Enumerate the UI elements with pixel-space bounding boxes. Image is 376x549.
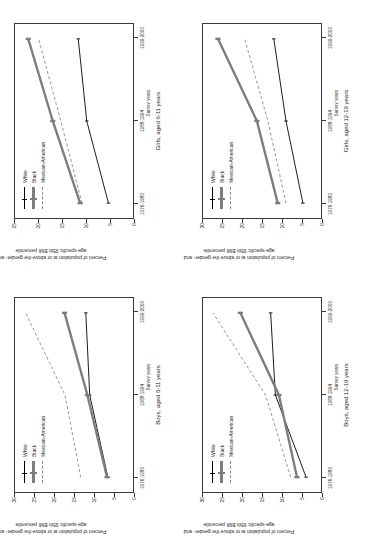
legend: White Black Mexican-American [208,142,235,209]
white-line-key-icon [212,461,213,483]
legend-item-mexican-american: Mexican-American [38,142,47,209]
y-axis-title: Percent of population at or above the ge… [0,521,116,535]
x-axis-title: Survey years [334,347,339,407]
x-axis-tick-label: 1999-2000 [328,16,333,60]
x-axis-tick-label: 1999-2000 [328,290,333,334]
white-line-key-icon [24,187,25,209]
black-line-key-icon [32,461,34,483]
y-axis-tick-label: 0 [131,223,137,263]
x-axis-tick [322,477,326,478]
legend-label: Mexican-American [228,142,234,183]
x-axis-tick [322,203,326,204]
legend-item-white: White [20,416,29,483]
panel-girls-6-11: Percent of population at or above the ge… [0,1,188,275]
legend-item-mexican-american: Mexican-American [226,416,235,483]
x-axis-tick-label: 1988-1994 [328,373,333,417]
y-axis-tick-label: 25 [31,497,37,537]
mexican-american-line-key-icon [230,187,231,209]
y-axis-tick-label: 25 [219,223,225,263]
y-axis-tick-label: 5 [107,223,113,263]
y-axis-tick-label: 10 [279,497,285,537]
legend-label: Mexican-American [40,416,46,457]
black-line-key-icon [220,461,222,483]
y-axis-tick-label: 10 [83,223,89,263]
legend-label: Mexican-American [228,416,234,457]
x-axis-tick-label: 1976-1980 [328,456,333,500]
x-axis-title: Survey years [146,73,151,133]
y-axis-tick-label: 20 [239,497,245,537]
panel-boys-12-19: Percent of population at or above the ge… [188,275,376,549]
series-line-mexican-american [245,39,286,203]
y-axis-tick-label: 20 [35,223,41,263]
legend-item-black: Black [217,416,226,483]
y-axis-tick-label: 10 [91,497,97,537]
panel-title: Boys, aged 12-19 years [343,297,349,493]
y-axis-tick-label: 15 [259,223,265,263]
white-line-key-icon [24,461,25,483]
legend-item-white: White [20,142,29,209]
y-axis-tick-label: 0 [319,223,325,263]
black-line-key-icon [32,187,34,209]
legend-item-mexican-american: Mexican-American [38,416,47,483]
black-line-key-icon [220,187,222,209]
x-axis-tick-label: 1988-1994 [140,99,145,143]
x-axis-tick [134,120,138,121]
y-axis-tick-label: 5 [111,497,117,537]
legend-label: White [22,170,28,183]
legend-item-black: Black [29,416,38,483]
x-axis-tick [322,37,326,38]
y-axis-tick-label: 10 [279,223,285,263]
legend-label: Black [31,445,37,457]
series-line-white [274,39,303,203]
x-axis-tick-label: 1988-1994 [328,99,333,143]
x-axis-tick-label: 1999-2000 [140,16,145,60]
y-axis-tick-label: 25 [219,497,225,537]
legend-label: Black [219,445,225,457]
x-axis-tick-label: 1976-1980 [140,456,145,500]
legend-label: Black [219,171,225,183]
y-axis-tick-label: 15 [71,497,77,537]
x-axis-tick [134,37,138,38]
y-axis-tick-label: 0 [131,497,137,537]
mexican-american-line-key-icon [230,461,231,483]
x-axis-tick [322,311,326,312]
y-axis-tick-label: 15 [59,223,65,263]
mexican-american-line-key-icon [42,461,43,483]
y-axis-tick-label: 30 [11,497,17,537]
legend-label: White [22,444,28,457]
series-line-black [240,313,297,477]
x-axis-title: Survey years [146,347,151,407]
y-axis-title: Percent of population at or above the ge… [0,247,116,261]
legend-item-white: White [208,142,217,209]
y-axis-tick-label: 5 [299,223,305,263]
white-line-key-icon [212,187,213,209]
legend-item-black: Black [29,142,38,209]
panel-title: Girls, aged 12-19 years [343,23,349,219]
x-axis-tick [134,477,138,478]
x-axis-title: Survey years [334,73,339,133]
legend-label: White [210,170,216,183]
x-axis-tick-label: 1988-1994 [140,373,145,417]
y-axis-tick-label: 20 [239,223,245,263]
panel-title: Girls, aged 6-11 years [155,23,161,219]
panel-boys-6-11: Percent of population at or above the ge… [0,275,188,549]
mexican-american-line-key-icon [42,187,43,209]
figure-canvas: Percent of population at or above the ge… [0,0,376,549]
legend-item-white: White [208,416,217,483]
panel-girls-12-19: Percent of population at or above the ge… [188,1,376,275]
y-axis-tick-label: 15 [259,497,265,537]
legend-label: Mexican-American [40,142,46,183]
x-axis-tick [322,394,326,395]
legend-label: Black [31,171,37,183]
legend: White Black Mexican-American [20,416,47,483]
legend-item-black: Black [217,142,226,209]
legend-label: White [210,444,216,457]
x-axis-tick [134,394,138,395]
x-axis-tick-label: 1976-1980 [328,182,333,226]
x-axis-tick [134,311,138,312]
x-axis-tick [322,120,326,121]
y-axis-tick-label: 0 [319,497,325,537]
y-axis-tick-label: 30 [199,223,205,263]
panel-title: Boys, aged 6-11 years [155,297,161,493]
legend: White Black Mexican-American [208,416,235,483]
